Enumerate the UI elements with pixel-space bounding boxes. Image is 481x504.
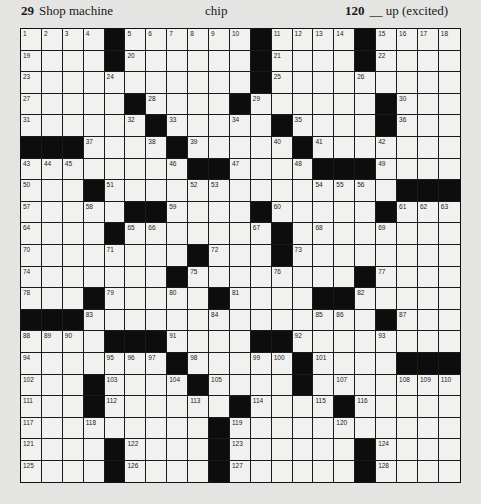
grid-cell[interactable] xyxy=(313,267,334,289)
grid-cell[interactable]: 13 xyxy=(313,29,334,51)
grid-cell[interactable]: 8 xyxy=(188,29,209,51)
grid-cell[interactable]: 42 xyxy=(376,137,397,159)
grid-cell[interactable] xyxy=(125,245,146,267)
grid-cell[interactable] xyxy=(146,72,167,94)
grid-cell[interactable] xyxy=(293,288,314,310)
grid-cell[interactable]: 66 xyxy=(146,223,167,245)
grid-cell[interactable] xyxy=(397,223,418,245)
grid-cell[interactable] xyxy=(334,223,355,245)
grid-cell[interactable] xyxy=(146,310,167,332)
grid-cell[interactable]: 78 xyxy=(21,288,42,310)
grid-cell[interactable]: 50 xyxy=(21,180,42,202)
grid-cell[interactable]: 35 xyxy=(293,115,314,137)
grid-cell[interactable]: 57 xyxy=(21,202,42,224)
grid-cell[interactable] xyxy=(84,245,105,267)
grid-cell[interactable] xyxy=(125,288,146,310)
grid-cell[interactable] xyxy=(334,115,355,137)
grid-cell[interactable]: 16 xyxy=(397,29,418,51)
grid-cell[interactable]: 2 xyxy=(42,29,63,51)
grid-cell[interactable]: 124 xyxy=(376,439,397,461)
grid-cell[interactable] xyxy=(418,51,439,73)
grid-cell[interactable] xyxy=(63,439,84,461)
grid-cell[interactable]: 111 xyxy=(21,396,42,418)
grid-cell[interactable]: 37 xyxy=(84,137,105,159)
grid-cell[interactable] xyxy=(146,245,167,267)
grid-cell[interactable] xyxy=(334,245,355,267)
grid-cell[interactable]: 32 xyxy=(125,115,146,137)
grid-cell[interactable] xyxy=(251,137,272,159)
grid-cell[interactable]: 40 xyxy=(272,137,293,159)
grid-cell[interactable]: 48 xyxy=(293,159,314,181)
grid-cell[interactable] xyxy=(42,115,63,137)
grid-cell[interactable]: 121 xyxy=(21,439,42,461)
grid-cell[interactable] xyxy=(84,461,105,483)
grid-cell[interactable] xyxy=(418,288,439,310)
grid-cell[interactable] xyxy=(439,310,460,332)
grid-cell[interactable] xyxy=(42,439,63,461)
grid-cell[interactable] xyxy=(209,396,230,418)
grid-cell[interactable] xyxy=(188,94,209,116)
grid-cell[interactable] xyxy=(167,439,188,461)
grid-cell[interactable] xyxy=(167,223,188,245)
grid-cell[interactable]: 104 xyxy=(167,375,188,397)
grid-cell[interactable] xyxy=(376,353,397,375)
grid-cell[interactable] xyxy=(251,159,272,181)
grid-cell[interactable] xyxy=(272,94,293,116)
grid-cell[interactable] xyxy=(313,331,334,353)
grid-cell[interactable] xyxy=(146,180,167,202)
grid-cell[interactable]: 6 xyxy=(146,29,167,51)
grid-cell[interactable]: 9 xyxy=(209,29,230,51)
grid-cell[interactable] xyxy=(63,180,84,202)
grid-cell[interactable]: 102 xyxy=(21,375,42,397)
grid-cell[interactable] xyxy=(376,418,397,440)
grid-cell[interactable] xyxy=(209,94,230,116)
grid-cell[interactable]: 31 xyxy=(21,115,42,137)
grid-cell[interactable] xyxy=(84,223,105,245)
grid-cell[interactable]: 84 xyxy=(209,310,230,332)
grid-cell[interactable] xyxy=(418,137,439,159)
grid-cell[interactable] xyxy=(293,439,314,461)
grid-cell[interactable]: 56 xyxy=(355,180,376,202)
grid-cell[interactable]: 21 xyxy=(272,51,293,73)
grid-cell[interactable]: 87 xyxy=(397,310,418,332)
grid-cell[interactable] xyxy=(42,353,63,375)
grid-cell[interactable]: 94 xyxy=(21,353,42,375)
grid-cell[interactable] xyxy=(146,267,167,289)
grid-cell[interactable] xyxy=(334,353,355,375)
grid-cell[interactable]: 127 xyxy=(230,461,251,483)
grid-cell[interactable] xyxy=(125,180,146,202)
grid-cell[interactable] xyxy=(125,396,146,418)
grid-cell[interactable] xyxy=(167,51,188,73)
grid-cell[interactable] xyxy=(418,267,439,289)
grid-cell[interactable] xyxy=(251,461,272,483)
grid-cell[interactable] xyxy=(251,245,272,267)
grid-cell[interactable] xyxy=(146,439,167,461)
grid-cell[interactable] xyxy=(313,94,334,116)
grid-cell[interactable] xyxy=(439,223,460,245)
grid-cell[interactable] xyxy=(209,115,230,137)
grid-cell[interactable]: 97 xyxy=(146,353,167,375)
grid-cell[interactable]: 90 xyxy=(63,331,84,353)
grid-cell[interactable]: 82 xyxy=(355,288,376,310)
grid-cell[interactable]: 19 xyxy=(21,51,42,73)
grid-cell[interactable]: 73 xyxy=(293,245,314,267)
grid-cell[interactable]: 101 xyxy=(313,353,334,375)
grid-cell[interactable] xyxy=(188,202,209,224)
grid-cell[interactable]: 3 xyxy=(63,29,84,51)
grid-cell[interactable]: 59 xyxy=(167,202,188,224)
grid-cell[interactable] xyxy=(167,180,188,202)
grid-cell[interactable]: 105 xyxy=(209,375,230,397)
grid-cell[interactable] xyxy=(439,288,460,310)
grid-cell[interactable] xyxy=(293,94,314,116)
grid-cell[interactable]: 92 xyxy=(293,331,314,353)
grid-cell[interactable] xyxy=(63,115,84,137)
grid-cell[interactable]: 38 xyxy=(146,137,167,159)
grid-cell[interactable] xyxy=(84,331,105,353)
grid-cell[interactable] xyxy=(63,353,84,375)
grid-cell[interactable]: 27 xyxy=(21,94,42,116)
grid-cell[interactable]: 74 xyxy=(21,267,42,289)
grid-cell[interactable] xyxy=(418,331,439,353)
grid-cell[interactable] xyxy=(42,461,63,483)
grid-cell[interactable]: 29 xyxy=(251,94,272,116)
grid-cell[interactable]: 45 xyxy=(63,159,84,181)
